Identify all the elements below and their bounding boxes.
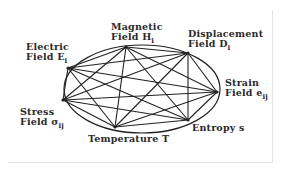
label-entropy: Entropy s [192,123,245,133]
label-displacement-field: Displacement Field Di [188,29,263,53]
label-strain-field: Strain Field eij [225,78,268,102]
label-magnetic-field: Magnetic Field Hi [111,22,163,46]
node-s [186,118,189,121]
node-E [66,66,69,69]
edge-e-s [188,92,217,120]
edge-E-sigma [63,68,68,100]
node-T [113,125,116,128]
label-temperature: Temperature T [88,134,169,144]
node-e [215,90,218,93]
node-sigma [61,98,64,101]
edge-D-T [115,53,188,127]
edge-H-T [115,47,126,127]
label-electric-field: Electric Field Ei [26,42,69,66]
edge-D-e [188,53,217,92]
graph-edges [61,45,218,128]
edge-E-D [68,53,188,68]
label-stress-field: Stress Field σij [20,107,64,131]
edge-E-e [68,68,217,92]
edge-H-s [126,47,188,120]
